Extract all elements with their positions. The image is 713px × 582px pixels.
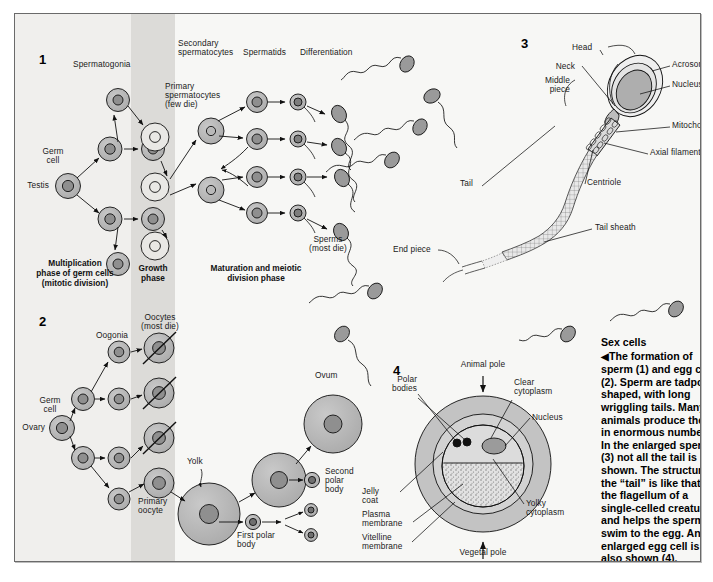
label-germ-cell-2-line2: cell	[31, 405, 69, 415]
phase-multiplication-line1: Multiplication	[19, 258, 131, 268]
label-plasma-membrane-line2: membrane	[362, 519, 402, 529]
label-tail: Tail	[460, 179, 473, 189]
label-axial-filament: Axial filament	[650, 148, 701, 158]
label-neck: Neck	[531, 62, 575, 72]
label-clear-cytoplasm-line2: cytoplasm	[514, 387, 552, 397]
label-differentiation: Differentiation	[300, 48, 353, 58]
label-yolk: Yolk	[187, 457, 203, 467]
label-sperms-line2: (most die)	[301, 244, 355, 254]
label-germ-cell-1-line2: cell	[33, 156, 73, 166]
caption-heading: Sex cells	[601, 336, 701, 349]
label-primary-spermatocytes-line3: (few die)	[165, 100, 198, 110]
label-first-polar-body-line2: body	[237, 540, 255, 550]
label-animal-pole: Animal pole	[441, 360, 525, 370]
label-mitochondrion: Mitochondrion	[672, 121, 701, 131]
label-ovary: Ovary	[15, 423, 45, 433]
caption-arrow-icon: ◀	[601, 351, 609, 362]
label-middle-piece-line2: piece	[520, 85, 570, 95]
label-acrosome: Acrosome	[672, 60, 701, 70]
label-vitelline-membrane-line2: membrane	[362, 542, 402, 552]
label-vegetal-pole: Vegetal pole	[441, 548, 525, 558]
label-second-polar-body-line3: body	[325, 485, 343, 495]
label-oocytes-line2: (most die)	[134, 322, 186, 332]
figure-panel: 1 Testis Germ cell Spermatogonia Primary…	[14, 13, 701, 562]
label-ovum: Ovum	[315, 371, 338, 381]
label-polar-bodies-line2: bodies	[365, 384, 417, 394]
label-spermatogonia: Spermatogonia	[73, 60, 131, 70]
panel-number-1: 1	[39, 52, 46, 67]
label-testis: Testis	[15, 181, 49, 191]
phase-growth-line1: Growth	[131, 263, 175, 273]
label-yolky-cytoplasm-line2: cytoplasm	[526, 508, 564, 518]
label-primary-oocyte-line2: oocyte	[138, 506, 163, 516]
caption-body: The formation of sperm (1) and egg cells…	[601, 350, 701, 562]
label-end-piece: End piece	[393, 245, 431, 255]
phase-multiplication-line2: phase of germ cells	[19, 268, 131, 278]
phase-maturation-line1: Maturation and meiotic	[181, 263, 331, 273]
label-centriole: Centriole	[587, 178, 621, 188]
label-spermatids: Spermatids	[243, 48, 286, 58]
label-head: Head	[572, 43, 592, 53]
label-tail-sheath: Tail sheath	[595, 223, 636, 233]
caption-block: Sex cells ◀The formation of sperm (1) an…	[601, 336, 701, 562]
panel-number-3: 3	[521, 36, 528, 51]
label-oogonia: Oogonia	[96, 331, 128, 341]
phase-multiplication-line3: (mitotic division)	[19, 278, 131, 288]
label-secondary-spermatocytes-line2: spermatocytes	[178, 48, 233, 58]
label-nucleus-sperm: Nucleus	[672, 80, 701, 90]
phase-maturation-line2: division phase	[181, 273, 331, 283]
panel-number-2: 2	[39, 314, 46, 329]
label-nucleus-egg: Nucleus	[532, 413, 563, 423]
phase-growth-line2: phase	[131, 273, 175, 283]
label-jelly-coat-line2: coat	[362, 496, 378, 506]
